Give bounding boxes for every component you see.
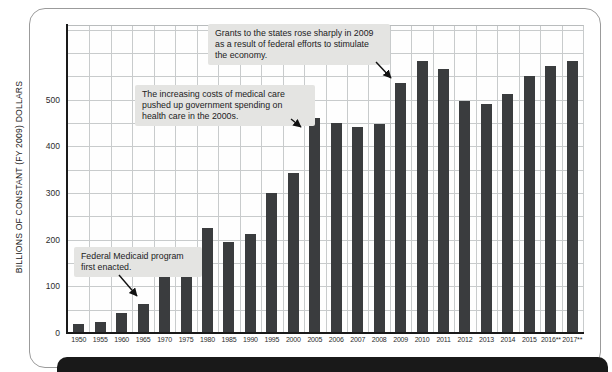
- x-tick-label-2007: 2007: [350, 336, 365, 343]
- y-tick-label-500: 500: [26, 95, 60, 105]
- x-tick-label-1955: 1955: [93, 336, 108, 343]
- x-tick-label-2009: 2009: [393, 336, 408, 343]
- v-gridline: [132, 26, 133, 334]
- x-tick-label-2008: 2008: [372, 336, 387, 343]
- x-tick-label-2013: 2013: [479, 336, 494, 343]
- v-gridline: [368, 26, 369, 334]
- v-gridline: [390, 26, 391, 334]
- x-tick-label-2011: 2011: [436, 336, 450, 343]
- x-tick-label-2017: 2017**: [562, 336, 582, 343]
- bar-2012: [459, 101, 470, 334]
- v-gridline: [89, 26, 90, 334]
- v-gridline: [497, 26, 498, 334]
- bar-1985: [223, 242, 234, 334]
- v-gridline: [304, 26, 305, 334]
- v-gridline: [175, 26, 176, 334]
- annotation-medicaid-enacted: Federal Medicaid program first enacted.: [74, 247, 202, 277]
- x-tick-label-1980: 1980: [200, 336, 215, 343]
- y-tick-label-100: 100: [26, 281, 60, 291]
- x-tick-label-2010: 2010: [415, 336, 430, 343]
- v-gridline: [433, 26, 434, 334]
- x-tick-label-1970: 1970: [157, 336, 172, 343]
- bar-2015: [524, 76, 535, 334]
- x-tick-label-1985: 1985: [222, 336, 237, 343]
- bar-1970: [159, 276, 170, 334]
- plot-area: [68, 25, 584, 334]
- bar-1980: [202, 228, 213, 334]
- v-gridline: [154, 26, 155, 334]
- x-tick-label-2012: 2012: [458, 336, 473, 343]
- v-gridline: [347, 26, 348, 334]
- y-axis-title: BILLIONS OF CONSTANT (FY 2009) DOLLARS: [14, 52, 24, 302]
- x-tick-label-2000: 2000: [286, 336, 301, 343]
- x-tick-label-2005: 2005: [307, 336, 322, 343]
- bar-2006: [331, 123, 342, 334]
- bar-2011: [438, 69, 449, 334]
- bar-2014: [502, 94, 513, 334]
- bar-2008: [374, 124, 385, 334]
- x-tick-label-1950: 1950: [71, 336, 86, 343]
- bar-1995: [266, 193, 277, 334]
- v-gridline: [476, 26, 477, 334]
- x-tick-label-1995: 1995: [264, 336, 279, 343]
- x-tick-label-2016: 2016**: [541, 336, 561, 343]
- x-tick-label-1965: 1965: [136, 336, 151, 343]
- x-tick-label-1960: 1960: [114, 336, 129, 343]
- y-axis-ticks: 0100200300400500: [28, 25, 62, 333]
- x-axis-ticks: 1950195519601965197019751980198519901995…: [68, 336, 583, 348]
- y-tick-label-200: 200: [26, 235, 60, 245]
- bar-2007: [352, 127, 363, 334]
- v-gridline: [240, 26, 241, 334]
- v-gridline: [111, 26, 112, 334]
- bar-1965: [138, 304, 149, 334]
- v-gridline: [261, 26, 262, 334]
- x-tick-label-2015: 2015: [522, 336, 537, 343]
- v-gridline: [283, 26, 284, 334]
- x-tick-label-1975: 1975: [179, 336, 194, 343]
- v-gridline: [218, 26, 219, 334]
- bar-2016: [545, 66, 556, 334]
- v-gridline: [411, 26, 412, 334]
- v-gridline: [540, 26, 541, 334]
- x-tick-label-2014: 2014: [501, 336, 516, 343]
- bar-2017: [567, 61, 578, 334]
- v-gridline: [519, 26, 520, 334]
- bar-2000: [288, 173, 299, 334]
- annotation-medical-costs: The increasing costs of medical care pus…: [135, 85, 315, 126]
- footer-bar: [57, 357, 608, 372]
- x-tick-label-2006: 2006: [329, 336, 344, 343]
- bar-2010: [417, 61, 428, 334]
- y-tick-label-400: 400: [26, 141, 60, 151]
- y-axis-line: [66, 24, 68, 334]
- x-axis-line: [66, 332, 584, 334]
- y-tick-label-0: 0: [26, 328, 60, 338]
- v-gridline: [197, 26, 198, 334]
- bar-2013: [481, 104, 492, 334]
- y-tick-label-300: 300: [26, 188, 60, 198]
- bar-2009: [395, 83, 406, 334]
- v-gridline: [326, 26, 327, 334]
- v-gridline: [562, 26, 563, 334]
- bar-2005: [309, 118, 320, 334]
- v-gridline: [454, 26, 455, 334]
- x-tick-label-1990: 1990: [243, 336, 258, 343]
- bar-1990: [245, 234, 256, 334]
- annotation-grants-2009: Grants to the states rose sharply in 200…: [208, 24, 390, 65]
- bar-1960: [116, 313, 127, 334]
